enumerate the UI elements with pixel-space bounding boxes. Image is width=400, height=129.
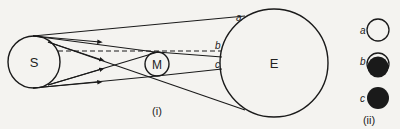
ray-outer-top: [33, 16, 245, 36]
sun-label: S: [30, 55, 39, 70]
view-b-partial-eclipse: [367, 53, 389, 78]
view-a-full-sun: [367, 19, 389, 41]
view-a-label: a: [360, 25, 366, 36]
part-i-label: (i): [152, 105, 162, 117]
view-c-label: c: [360, 93, 365, 104]
part-ii-label: (ii): [363, 114, 375, 126]
point-b-label: b: [215, 40, 221, 51]
earth-label: E: [270, 56, 279, 71]
view-b-label: b: [360, 56, 366, 67]
view-c-total-eclipse: [367, 87, 389, 109]
moon-label: M: [152, 58, 162, 72]
point-a-label: a: [236, 12, 242, 23]
ray-outer-bottom-arrow: [33, 82, 100, 88]
ray-top-cont: [33, 36, 155, 52]
point-c-label: c: [215, 59, 220, 70]
eclipse-diagram: S M E a b c (i) a b c (ii): [0, 0, 400, 129]
